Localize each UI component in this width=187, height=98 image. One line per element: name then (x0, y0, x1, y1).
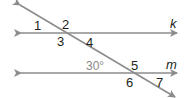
angle-label-7: 7 (156, 75, 163, 90)
angle-label-6: 6 (126, 75, 133, 90)
given-angle-label: 30° (86, 59, 104, 73)
line-label-m: m (166, 57, 177, 72)
angle-label-5: 5 (131, 58, 138, 73)
diagram: 1 2 3 4 k 30° 5 m 6 7 (0, 0, 187, 98)
line-label-k: k (170, 16, 178, 31)
angle-label-3: 3 (57, 34, 64, 49)
angle-label-2: 2 (62, 17, 69, 32)
angle-label-4: 4 (86, 35, 93, 50)
angle-label-1: 1 (34, 18, 41, 33)
transversal (20, 5, 175, 97)
